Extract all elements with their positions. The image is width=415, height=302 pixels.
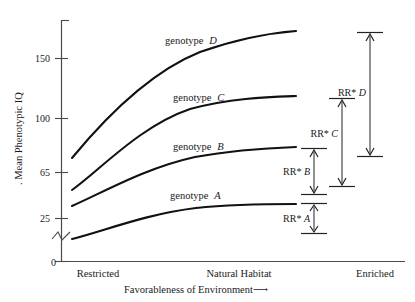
x-category-restricted: Restricted bbox=[77, 268, 120, 279]
rr-c-prefix: RR* bbox=[310, 128, 328, 139]
y-tick-label-0: 0 bbox=[51, 257, 56, 268]
rr-c-italic: C bbox=[331, 128, 338, 139]
rr-a-prefix: RR* bbox=[283, 213, 301, 224]
series-label-genotype-a: genotype A bbox=[170, 190, 221, 201]
series-label-d-italic: D bbox=[208, 35, 217, 46]
series-label-c-italic: C bbox=[217, 92, 225, 103]
reaction-range-c: RR* C bbox=[310, 99, 355, 187]
x-category-enriched: Enriched bbox=[356, 268, 395, 279]
rr-d-prefix: RR* bbox=[338, 87, 356, 98]
reaction-range-b: RR* B bbox=[283, 149, 327, 195]
reaction-range-d: RR* D bbox=[338, 33, 383, 157]
reaction-range-a: RR* A bbox=[283, 204, 327, 234]
rr-a-italic: A bbox=[303, 213, 311, 224]
y-axis-title: . Mean Phenotypic IQ bbox=[13, 92, 24, 185]
rr-b-prefix: RR* bbox=[283, 166, 301, 177]
y-axis bbox=[52, 20, 70, 262]
series-label-c-prefix: genotype bbox=[173, 92, 212, 103]
y-tick-label-25: 25 bbox=[40, 213, 50, 224]
series-label-a-italic: A bbox=[213, 190, 221, 201]
y-tick-label-65: 65 bbox=[40, 167, 50, 178]
reaction-norm-figure: 150 100 65 25 0 . Mean Phenotypic IQ Res… bbox=[0, 0, 415, 302]
series-label-genotype-d: genotype D bbox=[165, 35, 217, 46]
series-label-b-italic: B bbox=[217, 141, 224, 152]
y-tick-label-100: 100 bbox=[35, 113, 50, 124]
rr-label-c: RR* C bbox=[310, 128, 338, 139]
series-label-b-prefix: genotype bbox=[173, 141, 212, 152]
rr-label-b: RR* B bbox=[283, 166, 310, 177]
rr-b-italic: B bbox=[304, 166, 310, 177]
series-label-genotype-b: genotype B bbox=[173, 141, 224, 152]
x-category-natural-habitat: Natural Habitat bbox=[206, 268, 271, 279]
x-axis-title: Favorableness of Environment⟶ bbox=[124, 284, 268, 295]
rr-label-d: RR* D bbox=[338, 87, 367, 98]
series-label-a-prefix: genotype bbox=[170, 190, 209, 201]
chart-canvas: 150 100 65 25 0 . Mean Phenotypic IQ Res… bbox=[0, 0, 415, 302]
rr-label-a: RR* A bbox=[283, 213, 311, 224]
series-label-d-prefix: genotype bbox=[165, 35, 204, 46]
curve-genotype-a bbox=[72, 204, 296, 239]
rr-d-italic: D bbox=[358, 87, 367, 98]
y-tick-label-150: 150 bbox=[35, 53, 50, 64]
series-label-genotype-c: genotype C bbox=[173, 92, 225, 103]
